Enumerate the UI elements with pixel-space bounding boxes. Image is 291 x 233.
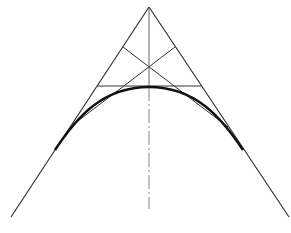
tangent-curve-construction-diagram	[0, 0, 291, 233]
background	[0, 0, 291, 233]
